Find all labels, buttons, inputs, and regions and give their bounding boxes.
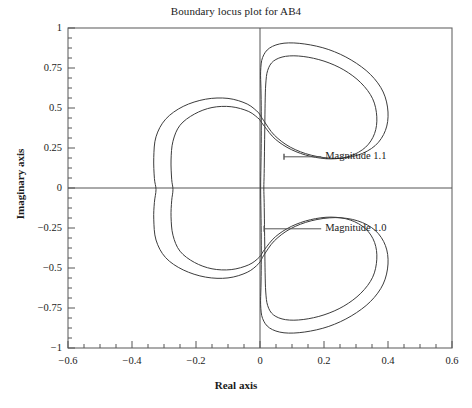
x-tick-label: −0.2 bbox=[176, 355, 216, 366]
y-axis-title: Imaginary axis bbox=[14, 124, 26, 244]
x-tick-label: −0.6 bbox=[48, 355, 88, 366]
y-tick-label: 0 bbox=[24, 182, 62, 194]
x-tick-label: −0.4 bbox=[112, 355, 152, 366]
y-tick-label: −0.25 bbox=[24, 222, 62, 234]
y-tick-label: −0.5 bbox=[24, 262, 62, 274]
y-tick-label: −1 bbox=[24, 342, 62, 354]
y-tick-label: 0.5 bbox=[24, 102, 62, 114]
boundary-locus-figure: Boundary locus plot for AB4 −0.6−0.4−0.2… bbox=[0, 0, 472, 408]
y-tick-label: 0.25 bbox=[24, 142, 62, 154]
annotation-label: Magnitude 1.1 bbox=[325, 150, 386, 161]
zero-axis-lines bbox=[68, 28, 452, 348]
plot-canvas bbox=[0, 0, 472, 408]
y-tick-label: −0.75 bbox=[24, 302, 62, 314]
x-tick-label: 0.2 bbox=[304, 355, 344, 366]
x-axis-title: Real axis bbox=[0, 379, 472, 391]
x-tick-label: 0 bbox=[240, 355, 280, 366]
x-tick-label: 0.6 bbox=[432, 355, 472, 366]
y-tick-label: 0.75 bbox=[24, 62, 62, 74]
annotation-label: Magnitude 1.0 bbox=[325, 222, 386, 233]
y-tick-label: 1 bbox=[24, 22, 62, 34]
x-tick-label: 0.4 bbox=[368, 355, 408, 366]
